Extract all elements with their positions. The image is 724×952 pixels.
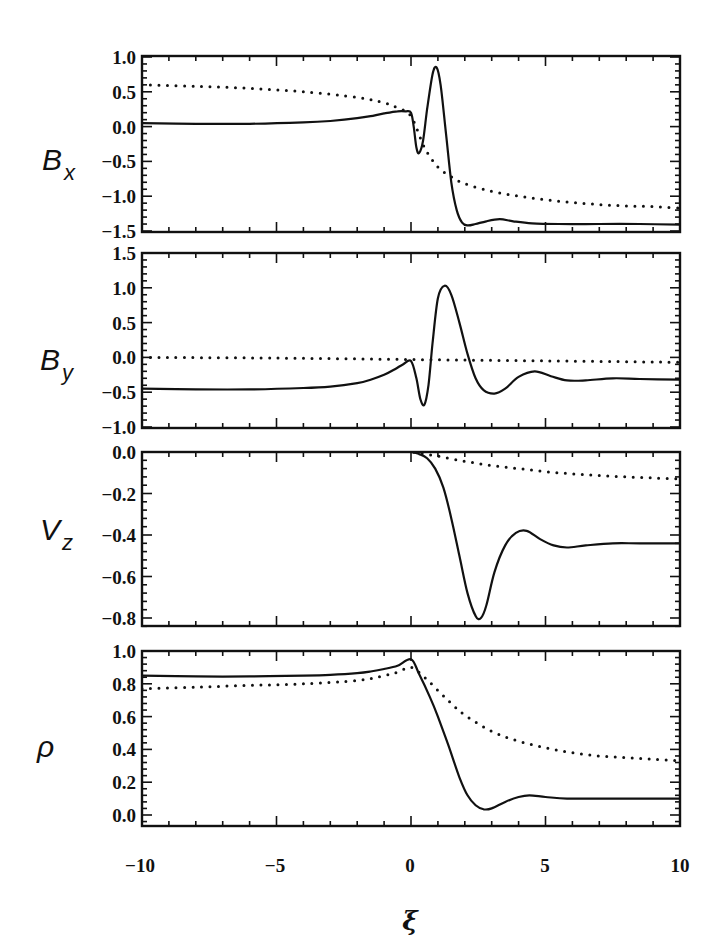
y-tick-label: 0.6 bbox=[112, 707, 136, 728]
solid-curve bbox=[142, 67, 680, 226]
y-tick-label: 0.0 bbox=[112, 805, 136, 826]
y-tick-label: −0.2 bbox=[101, 484, 136, 505]
y-tick-label: 1.0 bbox=[112, 278, 136, 299]
y-axis-title: B bbox=[42, 143, 62, 176]
figure: 1.00.50.0−0.5−1.0−1.5Bx 1.51.00.50.0−0.5… bbox=[0, 0, 724, 952]
solid-curve bbox=[142, 286, 680, 406]
y-axis-title: V bbox=[40, 513, 63, 546]
plot-frame bbox=[142, 56, 680, 232]
x-tick-label: −10 bbox=[125, 855, 155, 876]
dotted-curve bbox=[142, 85, 680, 208]
x-tick-label: −5 bbox=[265, 855, 285, 876]
y-tick-label: −1.5 bbox=[101, 221, 136, 242]
y-axis-subscript: y bbox=[60, 360, 75, 385]
y-tick-label: 0.0 bbox=[112, 347, 136, 368]
y-tick-label: 0.5 bbox=[112, 82, 136, 103]
x-axis-labels: −10 −5 0 5 10 ξ bbox=[125, 855, 689, 936]
x-tick-label: 10 bbox=[671, 855, 690, 876]
y-tick-label: −0.4 bbox=[101, 525, 136, 546]
panel-bx: 1.00.50.0−0.5−1.0−1.5Bx bbox=[42, 47, 680, 242]
panel-rho: 1.00.80.60.40.20.0ρ bbox=[36, 641, 680, 826]
y-tick-label: −1.0 bbox=[101, 417, 136, 438]
x-axis-title: ξ bbox=[402, 906, 419, 936]
y-tick-label: 0.0 bbox=[112, 442, 136, 463]
plot-frame bbox=[142, 253, 680, 428]
y-axis-title: B bbox=[40, 343, 60, 376]
y-tick-label: 1.0 bbox=[112, 641, 136, 662]
panel-by: 1.51.00.50.0−0.5−1.0By bbox=[40, 243, 680, 438]
y-tick-label: 0.5 bbox=[112, 313, 136, 334]
y-axis-title: ρ bbox=[36, 730, 54, 763]
y-axis-subscript: z bbox=[61, 530, 73, 555]
y-tick-label: 0.0 bbox=[112, 117, 136, 138]
dotted-curve bbox=[142, 667, 680, 761]
y-tick-label: 1.0 bbox=[112, 47, 136, 68]
y-tick-label: 0.8 bbox=[112, 674, 136, 695]
y-tick-label: −0.6 bbox=[101, 567, 136, 588]
y-tick-label: 1.5 bbox=[112, 243, 136, 264]
y-axis-subscript: x bbox=[63, 160, 76, 185]
y-tick-label: −0.5 bbox=[101, 151, 136, 172]
y-tick-label: 0.4 bbox=[112, 739, 136, 760]
y-tick-label: −0.5 bbox=[101, 382, 136, 403]
y-tick-label: −0.8 bbox=[101, 608, 136, 629]
y-tick-label: −1.0 bbox=[101, 186, 136, 207]
panel-vz: 0.0−0.2−0.4−0.6−0.8Vz bbox=[40, 442, 680, 629]
x-tick-label: 5 bbox=[540, 855, 550, 876]
plot-frame bbox=[142, 452, 680, 626]
solid-curve bbox=[142, 659, 680, 810]
x-tick-label: 0 bbox=[405, 855, 415, 876]
y-tick-label: 0.2 bbox=[112, 772, 136, 793]
